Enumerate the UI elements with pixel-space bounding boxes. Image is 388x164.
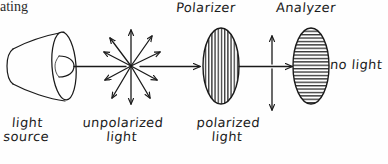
polarized-light-label: polarized light (195, 116, 261, 143)
analyzer-label: Analyzer (275, 1, 336, 15)
polarization-diagram: ating Polarizer Analyzer no light light … (0, 0, 388, 164)
polarizer-element (203, 28, 239, 104)
unpolarized-label-line2: light (81, 130, 163, 144)
light-source-label-line1: light (4, 116, 51, 130)
polarized-label-line1: polarized (196, 116, 261, 130)
polarized-label-line2: light (195, 130, 260, 144)
polarizer-label: Polarizer (175, 1, 236, 15)
diagram-canvas (0, 0, 388, 164)
unpolarized-light-label: unpolarized light (81, 116, 164, 143)
page-text-fragment: ating (0, 0, 28, 15)
unpolarized-label-line1: unpolarized (82, 116, 164, 130)
no-light-label: no light (329, 58, 383, 72)
light-source-label: light source (3, 116, 51, 143)
analyzer-element (293, 28, 329, 104)
light-source-label-line2: source (3, 130, 50, 144)
light-source-icon (7, 31, 78, 101)
